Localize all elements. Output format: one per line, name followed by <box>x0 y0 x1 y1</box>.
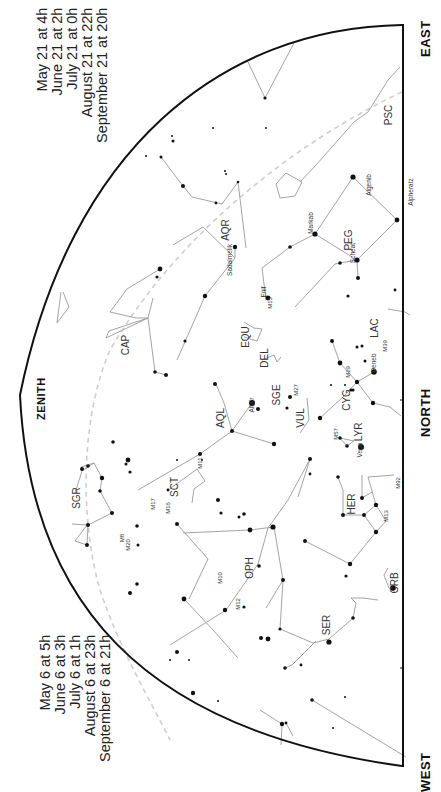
time-row: July 21 at 0h <box>65 8 80 143</box>
star-name-label: Scheat <box>349 243 356 263</box>
time-row: September 21 at 20h <box>95 8 110 143</box>
time-row: July 6 at 1h <box>68 635 83 762</box>
star-name-labels: AlgenibAlpheratzMarkabScheatSadalmelikEn… <box>226 174 415 458</box>
time-row: June 6 at 3h <box>53 635 68 762</box>
star-name-label: Vega <box>356 442 364 457</box>
star-name-label: Deneb <box>370 353 377 373</box>
constellation-label: LAC <box>369 318 380 337</box>
deep-sky-label: M10 <box>217 572 223 584</box>
deep-sky-label: M11 <box>197 457 203 469</box>
deep-sky-label: M27 <box>293 384 299 396</box>
constellation-label: SCT <box>169 477 180 497</box>
constellation-label: SER <box>321 615 332 636</box>
constellation-label: PSC <box>383 105 394 126</box>
constellation-label: OPH <box>244 557 255 579</box>
constellation-label: AQR <box>220 219 231 241</box>
constellation-label: CRB <box>389 572 400 593</box>
star-name-label: Markab <box>307 212 314 234</box>
deep-sky-label: M17 <box>150 498 156 510</box>
deep-sky-label: M16 <box>165 502 171 514</box>
constellation-label: CAP <box>120 334 131 355</box>
constellation-label: SGR <box>71 487 82 509</box>
star-name-label: Sadalmelik <box>226 243 233 276</box>
deep-sky-label: M13 <box>383 510 389 522</box>
direction-west: WEST <box>418 752 433 792</box>
deep-sky-label: M92 <box>395 477 401 489</box>
constellation-label: EQU <box>240 326 251 348</box>
direction-zenith: ZENITH <box>35 377 47 420</box>
deep-sky-label: M12 <box>235 598 241 610</box>
constellation-label: DEL <box>259 348 270 368</box>
deep-sky-label: M39 <box>382 340 388 352</box>
time-row: August 6 at 23h <box>83 635 98 762</box>
constellation-label: CYG <box>341 389 352 411</box>
constellation-label: SGE <box>271 384 282 405</box>
stars <box>80 96 399 729</box>
constellation-label: LYR <box>353 423 364 442</box>
time-table-west: May 6 at 5h June 6 at 3h July 6 at 1h Au… <box>38 635 113 762</box>
deep-sky-label: M29 <box>345 366 351 378</box>
time-row: May 21 at 4h <box>35 8 50 143</box>
direction-north: NORTH <box>418 388 433 437</box>
direction-east: EAST <box>418 20 433 57</box>
time-row: May 6 at 5h <box>38 635 53 762</box>
ecliptic-line <box>86 92 402 740</box>
time-row: September 6 at 21h <box>98 635 113 762</box>
time-table-east: May 21 at 4h June 21 at 2h July 21 at 0h… <box>35 8 110 143</box>
constellation-label: VUL <box>295 408 306 428</box>
constellation-label: HER <box>346 493 357 514</box>
deep-sky-label: M20 <box>125 539 131 551</box>
star-name-label: Altair <box>248 397 255 413</box>
star-name-label: Alpheratz <box>407 178 415 205</box>
constellation-label: AQL <box>215 408 226 428</box>
time-row: August 21 at 22h <box>80 8 95 143</box>
star-name-label: Algenib <box>365 174 373 196</box>
deep-sky-label: M57 <box>333 428 339 440</box>
star-name-label: Enif <box>260 286 267 297</box>
time-row: June 21 at 2h <box>50 8 65 143</box>
deep-sky-label: M15 <box>267 297 273 309</box>
